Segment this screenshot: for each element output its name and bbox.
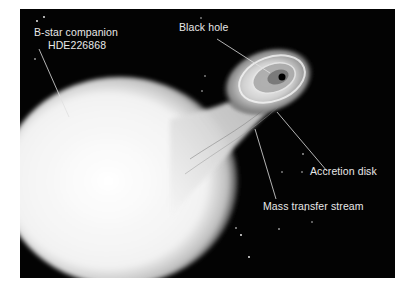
illustration-frame: B-star companion HDE226868 Black hole Ac… [20, 9, 395, 278]
label-black-hole: Black hole [179, 21, 228, 33]
label-b-star-companion: B-star companion [34, 26, 118, 38]
label-accretion-disk: Accretion disk [310, 165, 377, 177]
label-hde226868: HDE226868 [48, 39, 106, 51]
label-mass-transfer-stream: Mass transfer stream [263, 200, 364, 212]
black-hole [279, 74, 286, 81]
